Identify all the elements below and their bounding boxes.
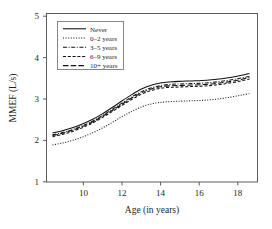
curve-10-years [52,78,249,136]
y-tick-label-5: 5 [35,11,40,21]
y-tick-label-2: 2 [35,135,40,145]
line-chart: 1 2 3 4 5 10 12 14 16 18 Age (in years) … [0,0,272,229]
curve-0-2-years [52,94,249,145]
legend-label-10-plus-years: 10+ years [90,62,118,70]
legend-label-3-5-years: 3–5 years [90,44,117,52]
x-tick-label-18: 18 [233,188,243,198]
legend: Never 0–2 years 3–5 years 6–9 years 10+ … [58,22,124,71]
x-tick-label-12: 12 [118,188,127,198]
data-curves [52,73,249,145]
y-tick-label-4: 4 [35,53,40,63]
x-axis-title: Age (in years) [125,205,179,216]
y-tick-label-1: 1 [35,177,40,187]
y-axis-title: MMEF (L/s) [8,74,19,123]
x-tick-label-14: 14 [156,188,166,198]
y-tick-label-3: 3 [35,94,40,104]
x-tick-label-10: 10 [79,188,89,198]
x-axis-ticks [83,182,237,186]
chart-figure: 1 2 3 4 5 10 12 14 16 18 Age (in years) … [0,0,272,229]
y-axis-ticks [43,16,47,182]
legend-label-6-9-years: 6–9 years [90,53,117,61]
curve-never [52,73,249,133]
legend-label-never: Never [90,26,108,34]
legend-label-0-2-years: 0–2 years [90,35,117,43]
x-tick-label-16: 16 [195,188,205,198]
